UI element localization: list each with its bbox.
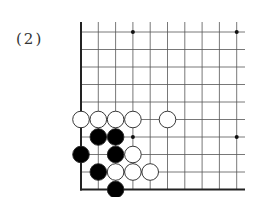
black-stone[interactable] <box>73 146 90 163</box>
black-stone[interactable] <box>107 181 124 197</box>
star-point <box>131 135 135 139</box>
white-stone[interactable] <box>73 111 90 128</box>
black-stone[interactable] <box>107 129 124 146</box>
white-stone[interactable] <box>107 164 124 181</box>
white-stone[interactable] <box>142 164 159 181</box>
black-stone[interactable] <box>90 164 107 181</box>
white-stone[interactable] <box>159 111 176 128</box>
white-stone[interactable] <box>90 111 107 128</box>
star-point <box>131 30 135 34</box>
white-stone[interactable] <box>107 111 124 128</box>
white-stone[interactable] <box>125 164 142 181</box>
star-point <box>235 135 239 139</box>
black-stone[interactable] <box>90 129 107 146</box>
black-stone[interactable] <box>107 146 124 163</box>
star-point <box>235 30 239 34</box>
white-stone[interactable] <box>125 111 142 128</box>
go-board <box>0 0 255 197</box>
white-stone[interactable] <box>125 146 142 163</box>
